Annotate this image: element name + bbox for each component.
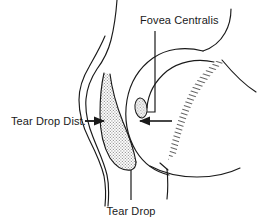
right-lateral-sweep [222, 60, 256, 92]
hatched-band [155, 50, 245, 175]
fovea-centralis-oval [134, 97, 149, 118]
fovea-centralis-label: Fovea Centralis [140, 14, 219, 26]
lower-branch-line [167, 169, 168, 199]
anatomical-diagram: Fovea Centralis Tear Drop Dist. Tear Dro… [0, 0, 263, 224]
figure-root: Fovea Centralis Tear Drop Dist. Tear Dro… [0, 0, 263, 224]
tear-drop-dist-label: Tear Drop Dist. [11, 115, 86, 127]
lower-boundary-arc [150, 166, 240, 177]
tear-drop-label: Tear Drop [106, 205, 155, 217]
lower-notch [160, 163, 168, 170]
